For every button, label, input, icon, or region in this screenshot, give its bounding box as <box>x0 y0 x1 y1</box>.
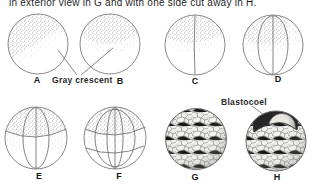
panel-letter-e: E <box>36 171 42 181</box>
embryo-e-drawing <box>3 107 69 169</box>
embryo-c-drawing <box>165 15 225 75</box>
embryo-b-drawing <box>80 14 140 74</box>
panel-letter-h: H <box>274 172 281 182</box>
panel-letter-a: A <box>34 75 41 85</box>
blastocoel-label: Blastocoel <box>221 97 267 107</box>
panel-letter-g: G <box>191 172 198 182</box>
panel-letter-f: F <box>116 171 122 181</box>
gray-crescent-label: Gray crescent <box>52 75 113 85</box>
panel-letter-c: C <box>192 76 199 86</box>
embryo-h-drawing <box>245 103 307 172</box>
embryo-f-drawing <box>82 106 148 169</box>
embryo-d-drawing <box>243 15 303 75</box>
embryo-g-drawing <box>165 108 227 170</box>
embryo-a-drawing <box>8 14 68 74</box>
panel-letter-b: B <box>117 76 124 86</box>
panel-letter-d: D <box>275 74 282 84</box>
figure-canvas: in exterior view in G and with one side … <box>0 0 314 193</box>
blastocoel-leader-line <box>252 106 264 115</box>
